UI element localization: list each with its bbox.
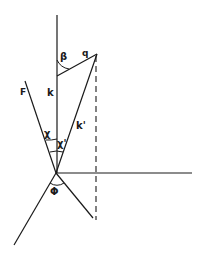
chi-prime-label: χ' [57, 138, 67, 149]
k-prime-vector-line [56, 54, 97, 173]
k-label: k [47, 87, 54, 98]
F-label: F [20, 87, 26, 97]
lower-right-line [56, 173, 93, 218]
lower-left-line [14, 173, 56, 245]
chi-angle-arc [46, 139, 57, 140]
chi-label: χ [44, 128, 51, 139]
vector-diagram: β q k k' F χ χ' Φ [0, 0, 203, 256]
k-prime-label: k' [76, 120, 86, 131]
phi-label: Φ [50, 186, 59, 197]
phi-angle-arc [50, 183, 64, 185]
q-label: q [82, 48, 88, 58]
beta-label: β [60, 51, 67, 62]
